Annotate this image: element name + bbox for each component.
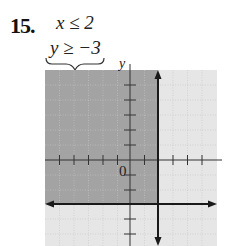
origin-label: 0 [119, 163, 127, 179]
shaded-region [45, 70, 158, 204]
y-axis-label: y [117, 56, 126, 71]
system-brace [46, 58, 104, 70]
inequality-graph: y 0 [0, 0, 227, 246]
